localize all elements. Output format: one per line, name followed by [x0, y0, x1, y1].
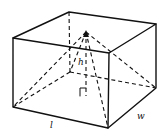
box-hidden-edges — [13, 12, 156, 107]
label-height: h — [78, 57, 84, 67]
label-length: l — [50, 120, 53, 130]
hidden-bottom-back-edge — [70, 72, 156, 88]
top-face-edges — [13, 12, 156, 53]
pyramid-edges — [13, 32, 156, 128]
diagram-canvas: h l w — [0, 0, 162, 138]
pyramid-edge-back-right — [86, 32, 156, 88]
label-width: w — [137, 111, 145, 121]
front-face — [13, 38, 109, 128]
hidden-vertical-edge — [69, 12, 70, 72]
box-visible-edges — [13, 12, 156, 128]
right-angle-marker — [80, 88, 86, 96]
box-pyramid-diagram: h l w — [0, 0, 162, 138]
